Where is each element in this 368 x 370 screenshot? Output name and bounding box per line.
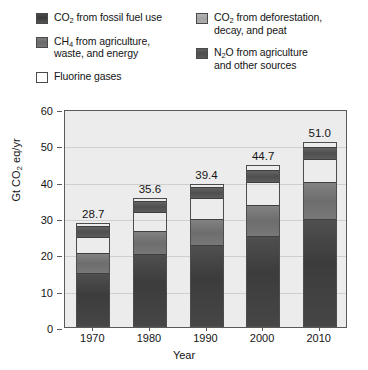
y-axis-tick-mark (57, 329, 62, 330)
y-axis-tick-label: 0 (47, 324, 53, 335)
bar-segment-fossil (191, 245, 223, 326)
x-axis-tick-label: 2000 (238, 332, 286, 344)
legend-item-label: N2O from agricultureand other sources (214, 47, 308, 71)
legend-item-label: Fluorine gases (54, 71, 121, 83)
bar-segment-ch4 (247, 205, 279, 237)
bar-total-label: 51.0 (296, 127, 344, 139)
bar-segment-fossil (77, 273, 109, 326)
bar-2010[interactable] (303, 142, 337, 327)
legend-swatch-fluorine-icon (36, 72, 48, 83)
y-axis-tick-mark (57, 293, 62, 294)
y-axis-tick-mark (57, 184, 62, 185)
legend-swatch-deforestation-icon (196, 13, 208, 24)
legend-swatch-ch4-icon (36, 37, 48, 48)
bar-1980[interactable] (133, 198, 167, 327)
bar-segment-deforestation (304, 159, 336, 182)
x-axis-tick-mark (262, 326, 263, 331)
y-axis-tick-mark (57, 256, 62, 257)
bar-segment-deforestation (191, 198, 223, 218)
legend-swatch-n2o-icon (196, 48, 208, 59)
bar-1990[interactable] (190, 184, 224, 327)
legend-item-n2o[interactable]: N2O from agricultureand other sources (196, 47, 352, 71)
x-axis-tick-mark (206, 326, 207, 331)
bar-total-label: 28.7 (69, 208, 117, 220)
bar-segment-ch4 (191, 219, 223, 246)
bar-segment-fossil (134, 254, 166, 326)
bar-segment-deforestation (247, 182, 279, 205)
x-axis-title: Year (0, 349, 368, 361)
x-axis-tick-label: 1970 (68, 332, 116, 344)
bar-segment-deforestation (134, 212, 166, 231)
legend-item-label: CH4 from agriculture,waste, and energy (54, 36, 150, 60)
legend-item-label: CO2 from deforestation,decay, and peat (214, 12, 322, 36)
y-axis-tick-label: 60 (41, 106, 53, 117)
legend-column-left: CO2 from fossil fuel useCH4 from agricul… (36, 12, 186, 94)
bar-segment-ch4 (77, 253, 109, 273)
y-axis-tick-label: 50 (41, 142, 53, 153)
bar-total-label: 39.4 (183, 169, 231, 181)
bar-total-label: 35.6 (126, 183, 174, 195)
bar-2000[interactable] (246, 165, 280, 327)
x-axis-tick-mark (149, 326, 150, 331)
y-axis-tick-mark (57, 220, 62, 221)
legend-item-deforestation[interactable]: CO2 from deforestation,decay, and peat (196, 12, 352, 36)
x-axis-tick-mark (319, 326, 320, 331)
legend-item-fluorine[interactable]: Fluorine gases (36, 71, 186, 83)
bar-segment-ch4 (304, 182, 336, 219)
legend-item-ch4[interactable]: CH4 from agriculture,waste, and energy (36, 36, 186, 60)
legend-item-fossil[interactable]: CO2 from fossil fuel use (36, 12, 186, 25)
x-axis: 19701980199020002010 (64, 332, 347, 348)
legend-item-label: CO2 from fossil fuel use (54, 12, 162, 25)
stacked-bar-chart: CO2 from fossil fuel useCH4 from agricul… (0, 0, 368, 370)
y-axis-tick-label: 40 (41, 178, 53, 189)
y-axis-tick-label: 30 (41, 215, 53, 226)
bar-segment-n2o (191, 187, 223, 198)
y-axis-title: Gt CO2 eq/yr (10, 110, 22, 230)
bar-segment-n2o (77, 226, 109, 237)
chart-legend: CO2 from fossil fuel useCH4 from agricul… (36, 12, 352, 94)
legend-column-right: CO2 from deforestation,decay, and peatN2… (196, 12, 352, 82)
y-axis-tick-mark (57, 111, 62, 112)
bar-total-label: 44.7 (239, 150, 287, 162)
bar-1970[interactable] (76, 223, 110, 327)
x-axis-tick-mark (92, 326, 93, 331)
y-axis-tick-mark (57, 147, 62, 148)
bar-segment-fossil (304, 219, 336, 326)
x-axis-tick-label: 2010 (295, 332, 343, 344)
y-axis-tick-label: 20 (41, 251, 53, 262)
x-axis-tick-label: 1990 (182, 332, 230, 344)
bar-segment-fossil (247, 236, 279, 326)
plot-area: 28.735.639.444.751.0 (64, 110, 347, 328)
x-axis-tick-label: 1980 (125, 332, 173, 344)
bar-segment-n2o (304, 147, 336, 160)
y-axis-tick-label: 10 (41, 287, 53, 298)
legend-swatch-fossil-icon (36, 13, 48, 24)
bar-segment-ch4 (134, 231, 166, 254)
bar-segment-n2o (247, 170, 279, 182)
bar-segment-deforestation (77, 237, 109, 253)
bar-segment-n2o (134, 201, 166, 212)
